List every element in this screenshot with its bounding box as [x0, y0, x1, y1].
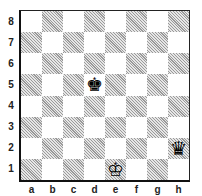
file-label-d: d	[84, 185, 105, 195]
square-d3	[84, 117, 105, 138]
rank-label-8: 8	[6, 17, 16, 27]
square-f3	[126, 117, 147, 138]
square-h5	[168, 74, 189, 95]
square-f6	[126, 53, 147, 74]
square-h2: ♛	[168, 138, 189, 159]
square-c4	[63, 96, 84, 117]
square-c6	[63, 53, 84, 74]
rank-label-3: 3	[6, 122, 16, 132]
square-c3	[63, 117, 84, 138]
square-b5	[42, 74, 63, 95]
square-b7	[42, 32, 63, 53]
square-e2	[105, 138, 126, 159]
square-d2	[84, 138, 105, 159]
file-label-a: a	[21, 185, 42, 195]
white-king-icon: ♔	[107, 160, 124, 179]
square-a1	[21, 159, 42, 180]
square-c2	[63, 138, 84, 159]
square-e6	[105, 53, 126, 74]
square-g5	[147, 74, 168, 95]
file-label-h: h	[168, 185, 189, 195]
square-h6	[168, 53, 189, 74]
square-a8	[21, 11, 42, 32]
square-e4	[105, 96, 126, 117]
square-c7	[63, 32, 84, 53]
square-g7	[147, 32, 168, 53]
square-b3	[42, 117, 63, 138]
square-f2	[126, 138, 147, 159]
square-c1	[63, 159, 84, 180]
square-a2	[21, 138, 42, 159]
square-a7	[21, 32, 42, 53]
square-f1	[126, 159, 147, 180]
file-label-c: c	[63, 185, 84, 195]
square-f5	[126, 74, 147, 95]
square-g1	[147, 159, 168, 180]
file-label-e: e	[105, 185, 126, 195]
square-h7	[168, 32, 189, 53]
square-c8	[63, 11, 84, 32]
square-b1	[42, 159, 63, 180]
square-g4	[147, 96, 168, 117]
square-b2	[42, 138, 63, 159]
square-b8	[42, 11, 63, 32]
square-e7	[105, 32, 126, 53]
rank-label-6: 6	[6, 59, 16, 69]
rank-label-7: 7	[6, 38, 16, 48]
square-a4	[21, 96, 42, 117]
square-d7	[84, 32, 105, 53]
square-f4	[126, 96, 147, 117]
square-b6	[42, 53, 63, 74]
file-label-g: g	[147, 185, 168, 195]
file-label-f: f	[126, 185, 147, 195]
black-queen-icon: ♛	[170, 139, 187, 158]
square-a5	[21, 74, 42, 95]
black-king-icon: ♚	[86, 75, 103, 94]
square-e3	[105, 117, 126, 138]
square-h8	[168, 11, 189, 32]
chess-board: ♚♛♔	[19, 10, 190, 182]
square-f8	[126, 11, 147, 32]
square-d4	[84, 96, 105, 117]
rank-label-4: 4	[6, 101, 16, 111]
square-e8	[105, 11, 126, 32]
square-d1	[84, 159, 105, 180]
square-g3	[147, 117, 168, 138]
square-g2	[147, 138, 168, 159]
square-d8	[84, 11, 105, 32]
rank-label-1: 1	[6, 164, 16, 174]
square-d6	[84, 53, 105, 74]
rank-label-2: 2	[6, 143, 16, 153]
square-h1	[168, 159, 189, 180]
square-d5: ♚	[84, 74, 105, 95]
square-f7	[126, 32, 147, 53]
rank-label-5: 5	[6, 80, 16, 90]
square-g8	[147, 11, 168, 32]
square-g6	[147, 53, 168, 74]
square-h3	[168, 117, 189, 138]
square-a3	[21, 117, 42, 138]
file-label-b: b	[42, 185, 63, 195]
square-c5	[63, 74, 84, 95]
square-h4	[168, 96, 189, 117]
square-e5	[105, 74, 126, 95]
square-b4	[42, 96, 63, 117]
square-a6	[21, 53, 42, 74]
square-e1: ♔	[105, 159, 126, 180]
